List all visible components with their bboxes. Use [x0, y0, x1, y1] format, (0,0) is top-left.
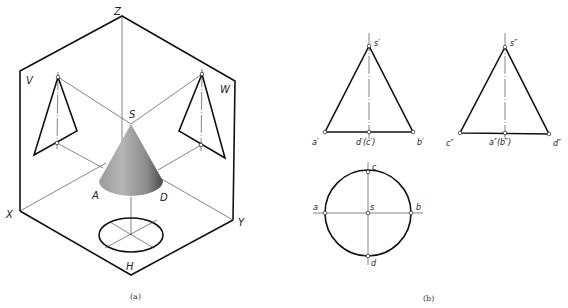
label-s-double-prime: s″	[510, 39, 517, 48]
projector-v-apex	[58, 77, 131, 124]
figure-a-isometric: Z V W S A D X Y H (a)	[5, 6, 245, 301]
label-h: H	[126, 261, 134, 272]
label-d-double-prime: d″	[553, 139, 561, 148]
cone-solid	[99, 124, 163, 196]
label-x: X	[5, 209, 14, 220]
caption-a: (a)	[130, 292, 141, 301]
w-base-point	[199, 143, 203, 147]
projector-w-base	[158, 145, 201, 170]
side-c-point	[458, 131, 462, 135]
label-s-top: s	[370, 203, 374, 212]
label-s-prime: s′	[374, 39, 380, 48]
front-apex-point	[367, 44, 371, 48]
front-b-point	[411, 130, 415, 134]
v-centerline	[57, 72, 58, 149]
label-b-top: b	[416, 203, 421, 212]
label-a-prime: a′	[312, 138, 319, 147]
label-a: A	[91, 190, 99, 201]
v-base-point	[55, 141, 59, 145]
x-axis	[20, 163, 106, 211]
label-c: c	[372, 163, 377, 172]
label-b-prime: b′	[417, 138, 424, 147]
diagram-canvas: Z V W S A D X Y H (a) s′ a′ d′(c′) b′ s″…	[0, 0, 568, 308]
side-mid-point	[503, 131, 507, 135]
w-apex-point	[200, 72, 204, 76]
label-y: Y	[238, 217, 245, 228]
top-a-point	[323, 211, 327, 215]
top-b-point	[409, 211, 413, 215]
label-a-top: a	[313, 203, 318, 212]
top-d-point	[366, 254, 370, 258]
label-s: S	[129, 109, 136, 120]
caption-b: (b)	[423, 294, 434, 303]
label-d: D	[160, 192, 168, 203]
top-c-point	[366, 170, 370, 174]
label-w: W	[220, 84, 231, 95]
label-d-top: d	[371, 259, 377, 268]
label-v: V	[26, 75, 34, 86]
figure-b-orthographic: s′ a′ d′(c′) b′ s″ c″ a″(b″) d″ c s a b …	[312, 33, 561, 303]
label-d-c-prime: d′(c′)	[356, 138, 375, 147]
label-a-b-double-prime: a″(b″)	[489, 138, 511, 147]
label-z: Z	[113, 6, 122, 17]
w-centerline	[201, 69, 202, 151]
side-view-triangle	[460, 47, 549, 134]
projector-v-base	[57, 143, 103, 168]
v-apex-point	[56, 75, 60, 79]
side-d-point	[547, 132, 551, 136]
front-mid-point	[367, 130, 371, 134]
side-apex-point	[503, 45, 507, 49]
label-c-double-prime: c″	[446, 139, 453, 148]
front-a-point	[323, 130, 327, 134]
y-axis	[160, 178, 233, 220]
